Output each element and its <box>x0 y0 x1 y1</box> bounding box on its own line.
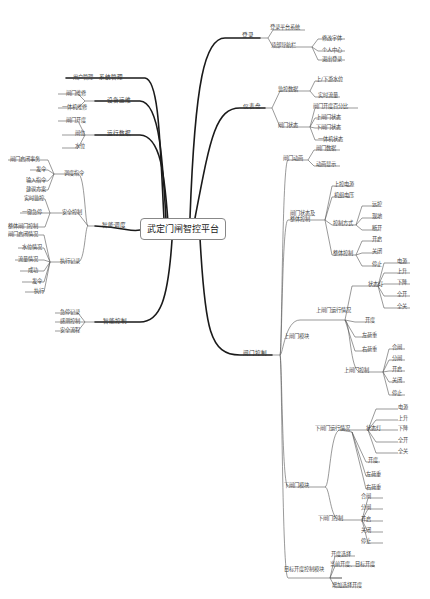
node-lower-gate-module[interactable]: 下闸门模块 <box>284 482 309 488</box>
node-target-opening-module[interactable]: 目标开度控制模块 <box>284 566 324 572</box>
node-upper-rise[interactable]: 上升 <box>397 268 407 274</box>
node-local[interactable]: 现地 <box>372 213 382 219</box>
node-execution-log[interactable]: 执行记录 <box>60 258 80 264</box>
node-estop-record[interactable]: 急停记录 <box>60 309 80 315</box>
node-operation-data[interactable]: 运行数据 <box>107 130 131 136</box>
node-control-mode[interactable]: 控制方式 <box>333 220 353 226</box>
node-sensing-control[interactable]: 感测控制 <box>60 318 80 324</box>
node-lower-stop[interactable]: 停止 <box>361 538 371 544</box>
node-smart-control[interactable]: 智能控制 <box>103 318 127 324</box>
node-gate-control[interactable]: 闸门控制 <box>243 350 267 356</box>
node-status-light-upper[interactable]: 状态灯 <box>368 281 383 287</box>
root-node[interactable]: 武定门闸智控平台 <box>140 218 226 240</box>
node-upper-open[interactable]: 开启 <box>392 366 402 372</box>
node-monitor-data[interactable]: 监控数据 <box>278 86 298 92</box>
node-open[interactable]: 开启 <box>372 236 382 242</box>
node-issue-order[interactable]: 发令 <box>36 166 46 172</box>
node-lower-open-switch[interactable]: 分闸 <box>361 504 371 510</box>
node-upper-gate-status[interactable]: 上闸门状态 <box>316 114 341 120</box>
node-upper-power-light[interactable]: 电源 <box>397 258 407 264</box>
node-unit-repair[interactable]: 一体机维修 <box>62 104 87 110</box>
node-upper-power[interactable]: 上控电源 <box>334 181 354 187</box>
node-emergency-stop[interactable]: 一键急停 <box>22 209 42 215</box>
node-animation-display[interactable]: 动画显示 <box>316 161 336 167</box>
node-safety-process[interactable]: 安全流程 <box>60 327 80 333</box>
node-overall-gate-control[interactable]: 整体闸门控制 <box>8 223 38 229</box>
node-gate-status[interactable]: 闸门状态 <box>278 122 298 128</box>
node-lower-open[interactable]: 开启 <box>361 516 371 522</box>
node-gate-repair[interactable]: 闸门维修 <box>66 90 86 96</box>
node-unit-status[interactable]: 一体机状态 <box>318 136 343 142</box>
node-upper-left-load[interactable]: 左荷重 <box>362 332 377 338</box>
node-unit-voltage[interactable]: 机组电压 <box>334 192 354 198</box>
node-dispatch-command[interactable]: 调度指令 <box>64 170 84 176</box>
node-realtime-monitor[interactable]: 实时监控 <box>24 195 44 201</box>
node-change-font[interactable]: 修改字体 <box>322 35 342 41</box>
node-lower-opening[interactable]: 开度 <box>368 457 378 463</box>
node-executed[interactable]: 执行 <box>34 288 44 294</box>
node-upper-fall[interactable]: 下降 <box>397 279 407 285</box>
node-gate-status-overall-2[interactable]: 整体控制 <box>290 216 310 222</box>
node-upper-stop[interactable]: 停止 <box>392 390 402 396</box>
node-water-level-up-down[interactable]: 上/下游水位 <box>316 76 343 82</box>
node-dashboard[interactable]: 仪表盘 <box>243 103 261 109</box>
node-gate-animation[interactable]: 闸门动画 <box>283 155 303 161</box>
node-flow-log[interactable]: 流量情况 <box>18 256 38 262</box>
node-issued[interactable]: 发令 <box>32 278 42 284</box>
node-user-management[interactable]: 用户管理 <box>73 74 93 80</box>
node-close[interactable]: 关闭 <box>372 248 382 254</box>
node-safety-control[interactable]: 安全控制 <box>62 209 82 215</box>
node-lower-rise[interactable]: 上升 <box>398 415 408 421</box>
node-lower-gate-control[interactable]: 下闸门控制 <box>318 515 343 521</box>
node-current-target-opening[interactable]: 当前开度、目标开度 <box>330 561 375 567</box>
node-disconnect[interactable]: 断开 <box>372 225 382 231</box>
node-lower-right-load[interactable]: 右荷重 <box>366 484 381 490</box>
node-upper-right-load[interactable]: 右荷重 <box>362 346 377 352</box>
node-upper-close[interactable]: 关闭 <box>392 377 402 383</box>
node-personal-center[interactable]: 个人中心 <box>322 47 342 53</box>
node-success[interactable]: 成功 <box>28 267 38 273</box>
node-lower-gate-operation[interactable]: 下闸门运行情况 <box>315 425 350 431</box>
node-login[interactable]: 登录 <box>242 32 254 38</box>
node-upper-full-open[interactable]: 全开 <box>397 291 407 297</box>
node-remote[interactable]: 远控 <box>372 201 382 207</box>
node-upper-gate-module[interactable]: 上闸门模块 <box>284 333 309 339</box>
node-smart-dispatch[interactable]: 智能调度 <box>102 222 126 228</box>
node-gate-affairs[interactable]: 闸门启闭事务 <box>10 156 40 162</box>
node-lower-left-load[interactable]: 左荷重 <box>366 471 381 477</box>
node-gate-opening-pct[interactable]: 闸门开度百分比 <box>313 103 348 109</box>
node-input-command[interactable]: 输入指令 <box>26 177 46 183</box>
node-top-navbar[interactable]: 顶部导航栏 <box>271 42 296 48</box>
node-upper-full-close[interactable]: 全关 <box>397 303 407 309</box>
node-device-maintenance[interactable]: 设备运维 <box>107 97 131 103</box>
node-upper-opening[interactable]: 开度 <box>365 317 375 323</box>
node-gate-data[interactable]: 闸门数据 <box>316 145 336 151</box>
node-stop[interactable]: 停止 <box>372 261 382 267</box>
node-login-system[interactable]: 登录平台系统 <box>270 24 300 30</box>
node-upper-gate-control[interactable]: 上闸门控制 <box>344 367 369 373</box>
node-gate-status-log[interactable]: 闸门启闭情况 <box>8 231 38 237</box>
node-gate-opening[interactable]: 闸门开度 <box>66 117 86 123</box>
node-water-level[interactable]: 水位 <box>75 143 85 149</box>
node-lower-close-switch[interactable]: 合闸 <box>361 493 371 499</box>
node-status-light-lower[interactable]: 状态灯 <box>366 425 381 431</box>
node-gate-position[interactable]: 闸位 <box>75 130 85 136</box>
node-system-management[interactable]: 系统管理 <box>99 74 123 80</box>
node-lower-fall[interactable]: 下降 <box>398 425 408 431</box>
node-increase-opening[interactable]: 增加选择开度 <box>332 582 362 588</box>
node-suggested-plan[interactable]: 建议方案 <box>26 186 46 192</box>
node-lower-gate-status[interactable]: 下闸门状态 <box>316 124 341 130</box>
node-upper-open-switch[interactable]: 分闸 <box>392 355 402 361</box>
node-overall-control[interactable]: 整体控制 <box>333 250 353 256</box>
node-opening-select[interactable]: 开度选择 <box>331 551 351 557</box>
node-lower-close[interactable]: 关闭 <box>361 527 371 533</box>
node-lower-power-light[interactable]: 电源 <box>398 404 408 410</box>
node-lower-full-close[interactable]: 全关 <box>398 448 408 454</box>
node-realtime-flow[interactable]: 实时流量 <box>318 92 338 98</box>
node-upper-close-switch[interactable]: 合闸 <box>392 344 402 350</box>
node-lower-full-open[interactable]: 全开 <box>398 437 408 443</box>
node-water-level-log[interactable]: 水位情况 <box>22 244 42 250</box>
node-logout[interactable]: 退出登录 <box>322 56 342 62</box>
node-upper-gate-operation[interactable]: 上闸门运行情况 <box>316 307 351 313</box>
